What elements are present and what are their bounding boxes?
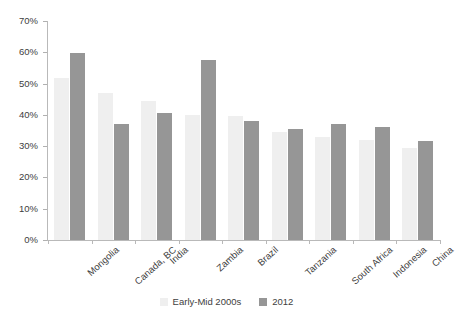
bar-group <box>135 21 179 240</box>
bar <box>402 148 417 240</box>
x-tick-mark <box>266 240 267 244</box>
bar-group <box>309 21 353 240</box>
bar-group <box>48 21 92 240</box>
bar-group <box>353 21 397 240</box>
x-axis-label: Brazil <box>255 244 280 268</box>
y-axis: 0%10%20%30%40%50%60%70% <box>0 0 44 250</box>
x-tick-mark <box>396 240 397 244</box>
bar <box>375 127 390 240</box>
x-tick-mark <box>309 240 310 244</box>
chart-legend: Early-Mid 2000s2012 <box>0 296 453 307</box>
x-axis-label: South Africa <box>349 244 394 286</box>
x-tick-mark <box>48 240 49 244</box>
bar <box>418 141 433 240</box>
x-tick-mark <box>353 240 354 244</box>
y-tick-label: 50% <box>19 79 38 89</box>
legend-item: 2012 <box>259 296 293 307</box>
bar <box>331 124 346 240</box>
bar <box>157 113 172 240</box>
x-axis-line <box>47 240 440 241</box>
legend-swatch-icon <box>160 298 168 306</box>
bar <box>315 137 330 240</box>
x-tick-mark <box>179 240 180 244</box>
x-axis-label: Zambia <box>214 244 245 273</box>
bar-group <box>92 21 136 240</box>
legend-label: 2012 <box>272 296 293 307</box>
bar-group <box>396 21 440 240</box>
bar <box>359 140 374 240</box>
x-tick-mark <box>440 240 441 244</box>
bar <box>185 115 200 240</box>
legend-item: Early-Mid 2000s <box>160 296 242 307</box>
y-tick-label: 20% <box>19 172 38 182</box>
x-tick-mark <box>222 240 223 244</box>
x-tick-mark <box>92 240 93 244</box>
x-axis-label: Indonesia <box>390 244 428 280</box>
x-axis-label: Mongolia <box>85 244 121 278</box>
y-tick-label: 60% <box>19 47 38 57</box>
y-tick-label: 10% <box>19 204 38 214</box>
x-axis-label: Canada, BC <box>132 244 178 287</box>
bar-group <box>266 21 310 240</box>
x-axis-label: China <box>430 244 456 269</box>
bar <box>70 53 85 240</box>
plot-area <box>48 21 440 240</box>
bar <box>54 78 69 240</box>
x-axis-label: Tanzania <box>303 244 339 278</box>
bar <box>244 121 259 240</box>
y-tick-label: 40% <box>19 110 38 120</box>
legend-label: Early-Mid 2000s <box>173 296 242 307</box>
y-tick-label: 30% <box>19 141 38 151</box>
x-tick-mark <box>135 240 136 244</box>
bar <box>114 124 129 240</box>
bar <box>288 129 303 240</box>
y-tick-label: 0% <box>24 235 38 245</box>
x-axis-category-labels: MongoliaCanada, BCIndiaZambiaBrazilTanza… <box>48 244 440 289</box>
bar <box>228 116 243 240</box>
bar <box>272 132 287 240</box>
bar-group <box>222 21 266 240</box>
y-tick-label: 70% <box>19 16 38 26</box>
bar <box>141 101 156 240</box>
bar <box>201 60 216 240</box>
bar-group <box>179 21 223 240</box>
legend-swatch-icon <box>259 298 267 306</box>
bar <box>98 93 113 240</box>
